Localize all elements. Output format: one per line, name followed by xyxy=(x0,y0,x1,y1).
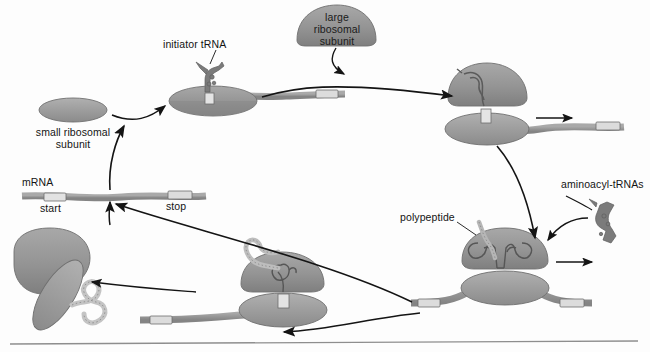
arrow-up-to-mrna xyxy=(109,202,110,225)
stop-codon-marker xyxy=(316,90,338,98)
leader-polypeptide xyxy=(457,222,476,235)
aminoacyl-trna-glyph xyxy=(589,199,616,243)
stage-5-release xyxy=(14,228,105,337)
label-initiator-trna: initiator tRNA xyxy=(163,38,226,50)
large-subunit-stage4 xyxy=(241,252,324,292)
arrow-stage2-to-stage3 xyxy=(497,146,535,238)
label-polypeptide: polypeptide xyxy=(400,211,455,223)
codon-marker-stage4 xyxy=(150,316,172,324)
translation-cycle-diagram: initiator tRNA large ribosomal subunit s… xyxy=(0,0,650,352)
stage-3-elongation xyxy=(411,222,592,307)
arrow-stage4-to-stage5 xyxy=(92,282,196,292)
start-codon-marker-free xyxy=(44,193,66,201)
start-codon-marker-stage3 xyxy=(418,299,440,307)
label-small-ribosomal-subunit: small ribosomal subunit xyxy=(16,126,130,150)
stage-4-termination xyxy=(140,240,327,327)
stop-codon-marker-stage3 xyxy=(560,299,584,307)
label-stop-codon: stop xyxy=(166,200,186,212)
arrow-large-subunit-to-stage2 xyxy=(332,48,344,74)
arrow-small-subunit-to-stage1 xyxy=(112,106,165,119)
p-site-codon-stage4 xyxy=(278,294,289,308)
stage-2-assembled-ribosome xyxy=(445,63,624,145)
label-large-ribosomal-subunit: large ribosomal subunit xyxy=(307,11,367,47)
arrow-aminoacyl-to-stage3 xyxy=(548,218,588,240)
small-subunit-stage3 xyxy=(461,271,549,305)
diagram-canvas xyxy=(0,0,650,352)
p-site-codon-stage2 xyxy=(481,109,491,123)
leader-aminoacyl-trnas xyxy=(566,196,592,210)
bottom-rule xyxy=(10,341,638,344)
stop-codon-marker-free xyxy=(168,191,192,199)
leader-initiator-trna xyxy=(210,50,216,64)
stop-codon-marker-stage2 xyxy=(596,122,620,130)
p-site-codon-stage1 xyxy=(205,93,214,104)
stage-1-initiation xyxy=(169,50,345,116)
large-subunit-stage2 xyxy=(448,63,527,106)
label-aminoacyl-trnas: aminoacyl-tRNAs xyxy=(561,178,644,190)
small-ribosomal-subunit-free xyxy=(39,98,107,122)
label-mrna: mRNA xyxy=(22,176,53,188)
label-start-codon: start xyxy=(40,202,61,214)
